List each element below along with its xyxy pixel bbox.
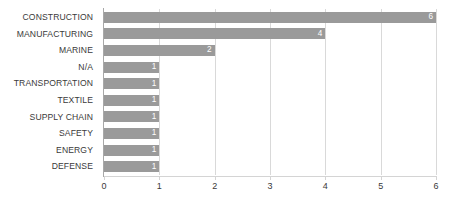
bar-value-label: 1 (152, 63, 157, 71)
bar[interactable]: 2 (104, 45, 215, 56)
bar-value-label: 1 (152, 129, 157, 137)
bar-row[interactable]: 6 (104, 9, 436, 26)
gridline (436, 9, 437, 175)
bar-value-label: 1 (152, 163, 157, 171)
bar-row[interactable]: 1 (104, 142, 436, 159)
bar-row[interactable]: 4 (104, 26, 436, 43)
bar-row[interactable]: 1 (104, 75, 436, 92)
bar[interactable]: 1 (104, 161, 159, 172)
x-axis-tick-label: 4 (323, 182, 328, 191)
bar-value-label: 1 (152, 80, 157, 88)
y-axis-line (103, 8, 104, 177)
bar[interactable]: 4 (104, 28, 325, 39)
category-label: CONSTRUCTION (0, 9, 99, 26)
x-axis-tick-label: 1 (157, 182, 162, 191)
bar-row[interactable]: 1 (104, 109, 436, 126)
bar[interactable]: 1 (104, 145, 159, 156)
category-axis-labels: CONSTRUCTION MANUFACTURING MARINE N/A TR… (0, 9, 99, 175)
bar[interactable]: 1 (104, 78, 159, 89)
x-axis-tick-labels: 0123456 (104, 182, 436, 196)
x-axis-tick-label: 5 (378, 182, 383, 191)
category-label: SAFETY (0, 125, 99, 142)
bar[interactable]: 1 (104, 128, 159, 139)
bar-value-label: 2 (207, 46, 212, 54)
x-axis-tick (381, 176, 382, 180)
bar-value-label: 1 (152, 146, 157, 154)
x-axis-tick (270, 176, 271, 180)
x-axis-tick (159, 176, 160, 180)
bar-row[interactable]: 1 (104, 92, 436, 109)
bar-row[interactable]: 2 (104, 42, 436, 59)
x-axis-tick (104, 176, 105, 180)
bar-value-label: 1 (152, 113, 157, 121)
bar[interactable]: 6 (104, 12, 436, 23)
category-label: MARINE (0, 42, 99, 59)
bar-series: 6421111111 (104, 9, 436, 175)
x-axis-tick-label: 0 (101, 182, 106, 191)
bar-value-label: 1 (152, 96, 157, 104)
category-label: N/A (0, 59, 99, 76)
bar-row[interactable]: 1 (104, 158, 436, 175)
bar[interactable]: 1 (104, 62, 159, 73)
bar[interactable]: 1 (104, 95, 159, 106)
category-label: TRANSPORTATION (0, 75, 99, 92)
plot-area: 6421111111 (104, 9, 436, 175)
bar[interactable]: 1 (104, 111, 159, 122)
category-label: ENERGY (0, 142, 99, 159)
x-axis-tick-label: 6 (433, 182, 438, 191)
bar-row[interactable]: 1 (104, 59, 436, 76)
x-axis-tick (436, 176, 437, 180)
category-label: TEXTILE (0, 92, 99, 109)
bar-row[interactable]: 1 (104, 125, 436, 142)
bar-chart: CONSTRUCTION MANUFACTURING MARINE N/A TR… (0, 0, 454, 206)
x-axis-tick (215, 176, 216, 180)
x-axis-tick-label: 3 (267, 182, 272, 191)
category-label: SUPPLY CHAIN (0, 109, 99, 126)
bar-value-label: 6 (428, 13, 433, 21)
bar-value-label: 4 (318, 30, 323, 38)
x-axis-tick (325, 176, 326, 180)
x-axis-ticks (104, 176, 436, 180)
x-axis-tick-label: 2 (212, 182, 217, 191)
category-label: MANUFACTURING (0, 26, 99, 43)
category-label: DEFENSE (0, 158, 99, 175)
